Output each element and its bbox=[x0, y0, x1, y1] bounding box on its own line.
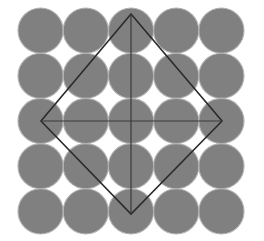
geometric-diagram bbox=[0, 0, 264, 241]
figure-canvas bbox=[0, 0, 264, 241]
